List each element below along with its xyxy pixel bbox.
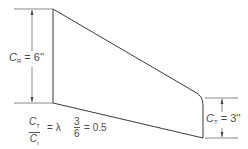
taper-ratio-fraction: CT Cr bbox=[29, 116, 40, 149]
result-equation: = 0.5 bbox=[84, 122, 107, 134]
tip-chord-equals: = bbox=[221, 112, 227, 124]
lambda-symbol: λ bbox=[56, 122, 61, 133]
arrow-down-icon bbox=[31, 97, 34, 102]
tip-chord-label: CT = 3'' bbox=[206, 112, 241, 128]
root-chord-equals: = bbox=[24, 51, 30, 63]
root-chord-value: 6'' bbox=[34, 51, 44, 63]
arrow-up-icon bbox=[221, 99, 224, 104]
result-value: 0.5 bbox=[93, 122, 107, 133]
value-denominator: 6 bbox=[74, 128, 80, 139]
result-equals: = bbox=[84, 122, 90, 133]
arrow-down-icon bbox=[221, 132, 224, 137]
denominator-subscript: r bbox=[37, 140, 39, 146]
fraction-denominator: Cr bbox=[30, 133, 39, 149]
numerator-subscript: T bbox=[36, 123, 40, 129]
arrow-up-icon bbox=[31, 10, 34, 15]
denominator-symbol: C bbox=[30, 133, 37, 144]
tip-chord-value: 3'' bbox=[230, 112, 240, 124]
tip-chord-symbol: C bbox=[206, 112, 214, 124]
root-chord-label: CR = 6'' bbox=[9, 51, 44, 67]
root-chord-subscript: R bbox=[17, 58, 21, 64]
lambda-equation: = λ bbox=[47, 122, 61, 134]
value-fraction: 3 6 bbox=[74, 116, 80, 139]
lambda-equals: = bbox=[47, 122, 53, 133]
fraction-numerator: CT bbox=[29, 116, 40, 132]
root-chord-symbol: C bbox=[9, 51, 17, 63]
tip-chord-subscript: T bbox=[214, 119, 218, 125]
value-numerator: 3 bbox=[74, 116, 80, 127]
